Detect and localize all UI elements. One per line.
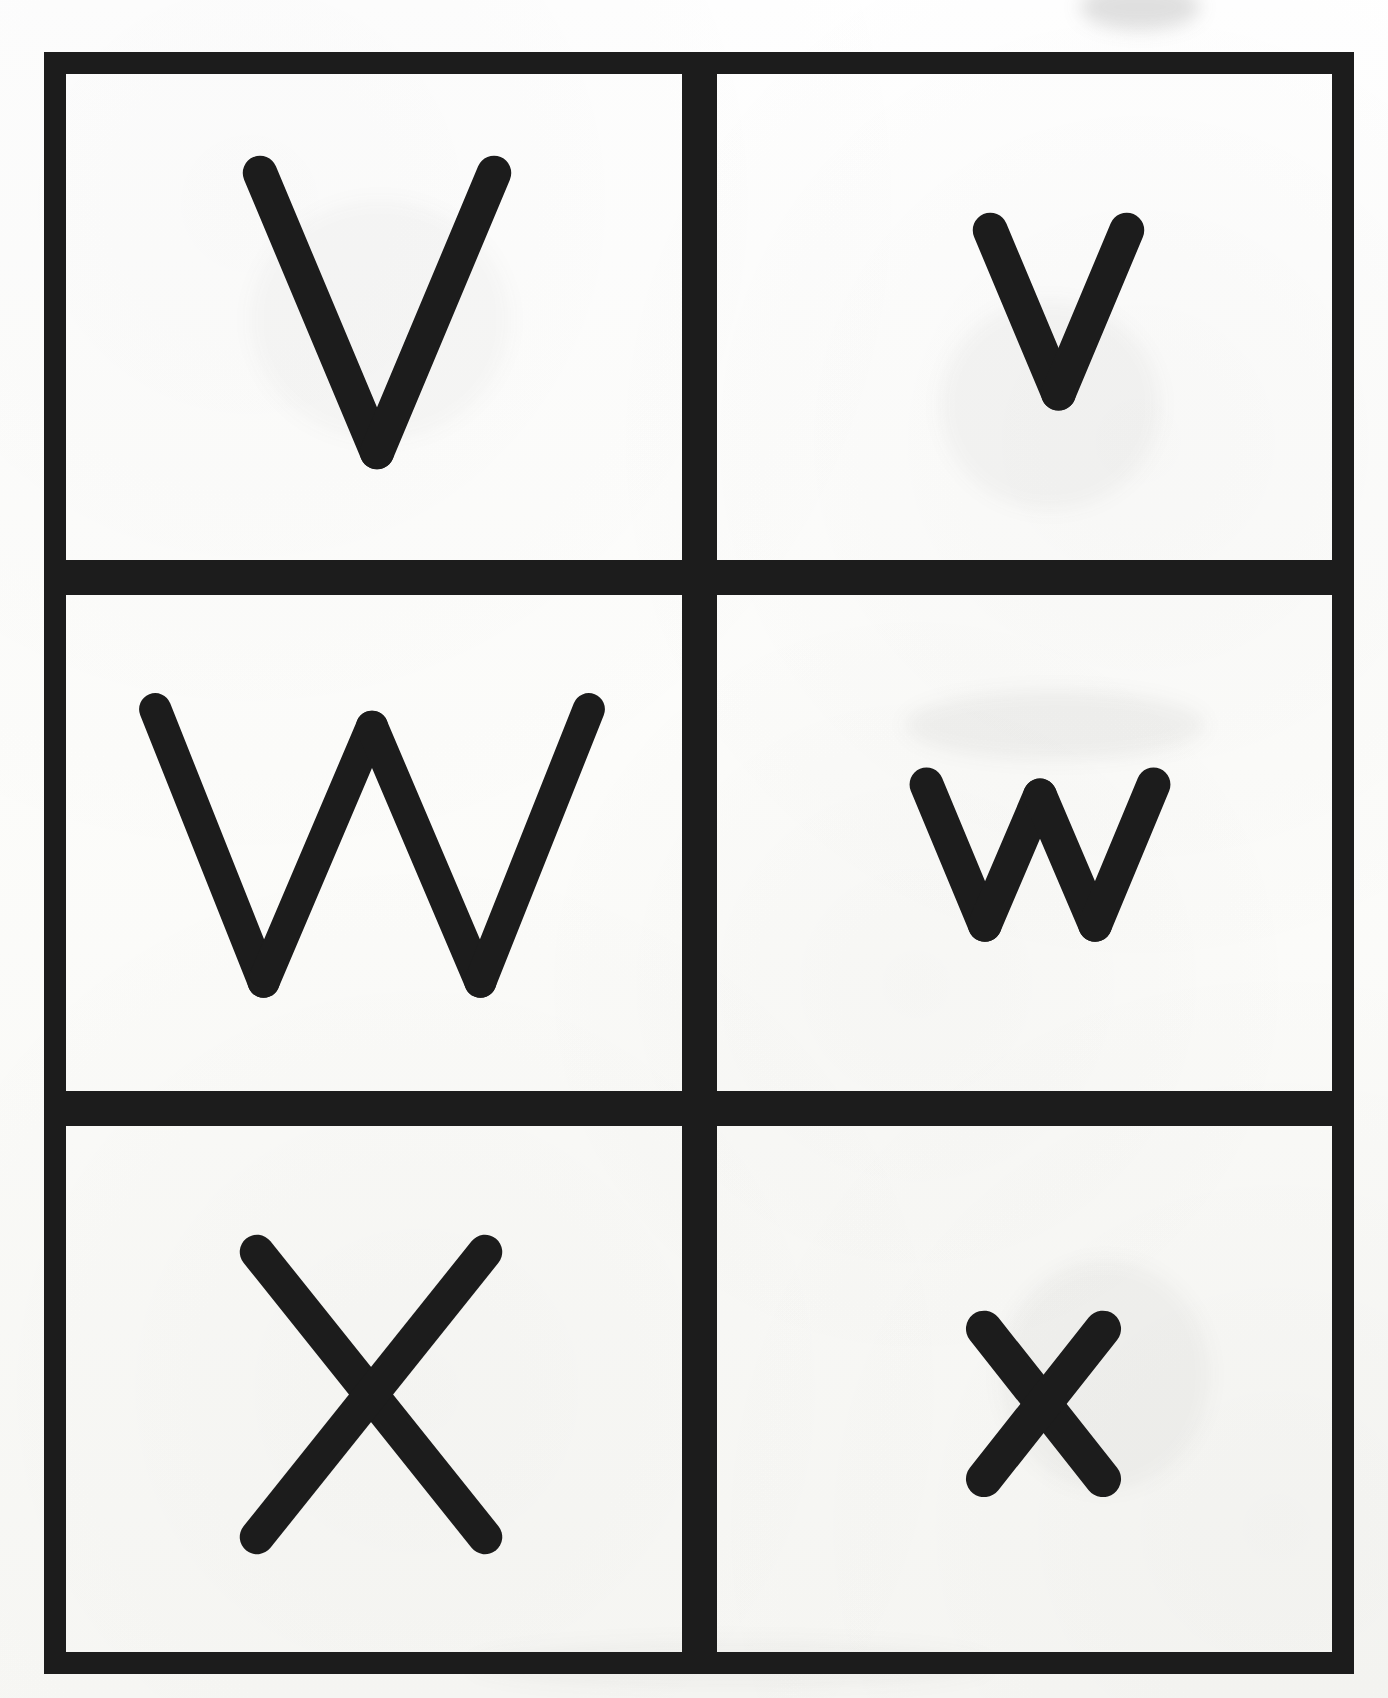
- glyph-slot: [66, 74, 682, 560]
- worksheet-frame: V v W: [44, 52, 1354, 1674]
- glyph-slot: [66, 595, 682, 1091]
- letter-x-lowercase-icon: [961, 1309, 1126, 1499]
- letter-grid: V v W: [66, 74, 1332, 1652]
- grid-cell-x-uppercase[interactable]: X: [66, 1108, 699, 1652]
- grid-cell-x-lowercase[interactable]: x: [699, 1108, 1332, 1652]
- letter-v-uppercase-icon: [227, 140, 527, 485]
- grid-cell-v-uppercase[interactable]: V: [66, 74, 699, 578]
- glyph-slot: [717, 74, 1332, 560]
- letter-w-uppercase-icon: [123, 677, 621, 1014]
- glyph-slot: [717, 1126, 1332, 1652]
- scan-smudge: [1080, 0, 1200, 30]
- glyph-slot: [717, 595, 1332, 1091]
- grid-cell-w-uppercase[interactable]: W: [66, 578, 699, 1108]
- letter-w-lowercase-icon: [906, 764, 1174, 945]
- grid-cell-w-lowercase[interactable]: w: [699, 578, 1332, 1108]
- letter-v-lowercase-icon: [971, 211, 1146, 412]
- letter-x-uppercase-icon: [221, 1222, 521, 1567]
- glyph-slot: [66, 1126, 682, 1652]
- grid-cell-v-lowercase[interactable]: v: [699, 74, 1332, 578]
- worksheet-page: V v W: [0, 0, 1388, 1698]
